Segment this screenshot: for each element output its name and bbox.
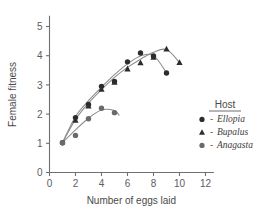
y-axis-tick-label: 4 (37, 50, 43, 61)
scatter-plot-svg: 012345024681012 Number of eggs laidFemal… (0, 0, 266, 212)
data-point-anagasta (73, 133, 78, 138)
data-point-anagasta (86, 116, 91, 121)
x-axis-tick-label: 0 (47, 178, 53, 189)
chart-figure: 012345024681012 Number of eggs laidFemal… (0, 0, 266, 212)
fit-curves-group (63, 49, 180, 143)
legend-marker-bupalus (199, 129, 205, 135)
legend-dash: - (210, 113, 213, 124)
legend-label-anagasta: Anagasta (216, 140, 253, 150)
fit-curve-bupalus (63, 49, 180, 143)
x-axis-tick-label: 2 (73, 178, 79, 189)
legend-dash: - (210, 139, 213, 150)
data-point-anagasta (99, 106, 104, 111)
x-axis-tick-label: 6 (125, 178, 131, 189)
legend-label-bupalus: Bupalus (217, 127, 248, 137)
data-point-ellopia (164, 70, 169, 75)
data-point-ellopia (125, 59, 130, 64)
y-axis-title: Female fitness (7, 62, 18, 127)
axes-group: 012345024681012 (37, 16, 213, 189)
x-axis-tick-label: 4 (99, 178, 105, 189)
fit-curve-ellopia (63, 54, 167, 143)
data-point-ellopia (138, 50, 143, 55)
legend-dash: - (210, 126, 213, 137)
legend-marker-anagasta (199, 143, 204, 148)
legend-label-ellopia: Ellopia (216, 114, 245, 124)
x-axis-tick-label: 12 (200, 178, 212, 189)
legend-marker-ellopia (199, 117, 204, 122)
x-axis-tick-label: 8 (151, 178, 157, 189)
data-points-group (60, 46, 183, 146)
y-axis-tick-label: 0 (37, 167, 43, 178)
y-axis-tick-label: 1 (37, 138, 43, 149)
y-axis-tick-label: 5 (37, 21, 43, 32)
legend-title: Host (215, 99, 236, 110)
y-axis-tick-label: 3 (37, 80, 43, 91)
data-point-anagasta (60, 140, 65, 145)
x-axis-tick-label: 10 (174, 178, 186, 189)
data-point-anagasta (112, 110, 117, 115)
y-axis-tick-label: 2 (37, 109, 43, 120)
x-axis-title: Number of eggs laid (87, 195, 177, 206)
chart-legend: Host-Ellopia-Bupalus-Anagasta (199, 99, 253, 150)
